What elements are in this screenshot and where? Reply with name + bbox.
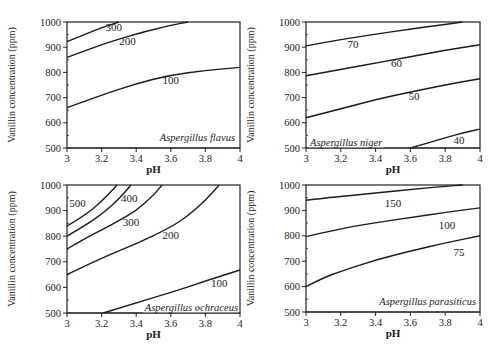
y-tick-label: 800 [45, 67, 61, 78]
x-tick-label: 3.2 [334, 153, 347, 164]
contour-label: 100 [211, 277, 228, 289]
y-tick-label: 600 [45, 282, 61, 293]
contour-line-70 [306, 22, 463, 46]
contour-label: 400 [121, 192, 138, 204]
x-tick-label: 4 [477, 317, 483, 328]
contour-label: 200 [119, 35, 136, 47]
y-tick-label: 1000 [279, 17, 300, 28]
y-tick-label: 1000 [40, 17, 61, 28]
x-tick-label: 3.6 [164, 318, 177, 329]
y-tick-label: 500 [45, 143, 61, 154]
x-tick-label: 3.6 [404, 153, 417, 164]
x-axis-label: pH [146, 328, 161, 340]
x-tick-label: 3.2 [95, 318, 108, 329]
contour-label: 75 [454, 246, 466, 258]
y-axis-label: Vanillin concentration (ppm) [6, 27, 18, 143]
x-tick-label: 3.4 [130, 153, 144, 164]
x-tick-label: 3 [64, 153, 69, 164]
contour-line-75 [306, 236, 480, 287]
y-tick-label: 900 [45, 205, 61, 216]
contour-figure: 500600700800900100033.23.43.63.84pHVanil… [0, 0, 499, 353]
x-tick-label: 3.8 [439, 153, 452, 164]
plot-frame [67, 22, 240, 148]
contour-label: 50 [408, 90, 420, 102]
x-tick-label: 4 [477, 153, 483, 164]
x-tick-label: 3.4 [369, 317, 383, 328]
contour-label: 300 [123, 216, 140, 228]
contour-label: 500 [69, 197, 86, 209]
x-axis-label: pH [386, 327, 401, 339]
y-tick-label: 700 [45, 256, 61, 267]
y-tick-label: 700 [284, 92, 300, 103]
x-tick-label: 3.2 [334, 317, 347, 328]
y-axis-label: Vanillin concentration (ppm) [6, 191, 18, 307]
y-tick-label: 800 [284, 230, 300, 241]
y-axis-label: Vanillin concentration (ppm) [245, 27, 257, 143]
contour-label: 60 [391, 57, 403, 69]
x-tick-label: 4 [237, 318, 243, 329]
contour-label: 300 [105, 21, 122, 33]
contour-line-50 [306, 79, 480, 118]
y-tick-label: 800 [45, 231, 61, 242]
y-tick-label: 700 [45, 92, 61, 103]
y-tick-label: 500 [45, 308, 61, 319]
y-tick-label: 1000 [279, 180, 300, 191]
y-axis-label: Vanillin concentration (ppm) [245, 191, 257, 307]
species-label: Aspergillus parasiticus [378, 296, 476, 307]
contour-line-100 [67, 67, 240, 107]
contour-line-40 [410, 129, 480, 148]
y-tick-label: 1000 [40, 180, 61, 191]
x-tick-label: 3.4 [369, 153, 383, 164]
y-tick-label: 600 [45, 117, 61, 128]
y-tick-label: 900 [284, 205, 300, 216]
species-label: Aspergillus ochraceus [144, 302, 238, 313]
plot-frame [67, 185, 240, 313]
y-tick-label: 900 [284, 42, 300, 53]
y-tick-label: 700 [284, 256, 300, 267]
y-tick-label: 900 [45, 42, 61, 53]
x-tick-label: 3.2 [95, 153, 108, 164]
figure-canvas: 500600700800900100033.23.43.63.84pHVanil… [0, 0, 499, 353]
y-tick-label: 600 [284, 117, 300, 128]
y-tick-label: 500 [284, 307, 300, 318]
y-tick-label: 800 [284, 67, 300, 78]
x-tick-label: 4 [237, 153, 243, 164]
x-tick-label: 3.8 [199, 318, 212, 329]
x-tick-label: 3 [303, 317, 308, 328]
x-tick-label: 3.6 [164, 153, 177, 164]
x-tick-label: 3.8 [439, 317, 452, 328]
x-tick-label: 3.8 [199, 153, 212, 164]
x-tick-label: 3 [303, 153, 308, 164]
x-axis-label: pH [146, 163, 161, 175]
species-label: Aspergillus flavus [159, 132, 235, 143]
contour-label: 40 [454, 134, 466, 146]
contour-line-200 [67, 185, 219, 275]
species-label: Aspergillus niger [309, 137, 383, 148]
contour-label: 100 [163, 74, 180, 86]
x-tick-label: 3.6 [404, 317, 417, 328]
y-tick-label: 600 [284, 281, 300, 292]
contour-label: 150 [385, 197, 402, 209]
contour-label: 200 [163, 229, 180, 241]
y-tick-label: 500 [284, 143, 300, 154]
x-tick-label: 3.4 [130, 318, 144, 329]
contour-label: 70 [347, 38, 359, 50]
x-axis-label: pH [386, 163, 401, 175]
x-tick-label: 3 [64, 318, 69, 329]
contour-label: 100 [439, 219, 456, 231]
